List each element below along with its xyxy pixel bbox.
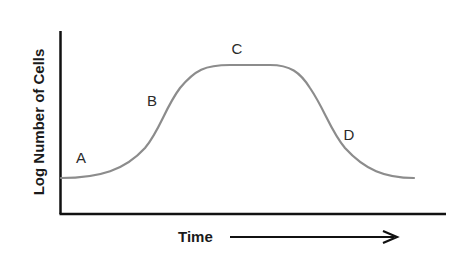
growth-curve-chart xyxy=(0,0,468,253)
point-label-a: A xyxy=(76,149,86,166)
point-label-d: D xyxy=(344,126,355,143)
point-label-c: C xyxy=(232,40,243,57)
x-axis-label: Time xyxy=(178,228,213,245)
y-axis-label: Log Number of Cells xyxy=(30,49,47,196)
growth-curve xyxy=(61,65,414,178)
point-label-b: B xyxy=(147,92,157,109)
